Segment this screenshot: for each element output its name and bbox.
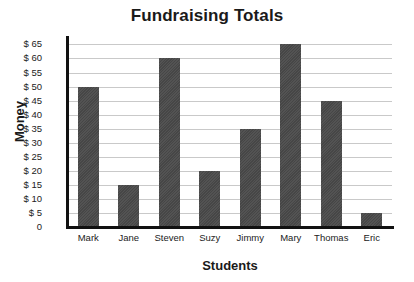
y-tick-label: $ 40 bbox=[0, 109, 42, 120]
gridline bbox=[68, 199, 392, 200]
y-tick-label: $ 10 bbox=[0, 193, 42, 204]
plot-area: $ 65$ 60$ 55$ 50$ 45$ 40$ 35$ 30$ 25$ 20… bbox=[68, 36, 392, 227]
y-tick-label: $ 65 bbox=[0, 38, 42, 49]
y-tick-label: $ 50 bbox=[0, 81, 42, 92]
gridline bbox=[68, 44, 392, 45]
gridline bbox=[68, 213, 392, 214]
gridline bbox=[68, 171, 392, 172]
bar-chart: Fundraising Totals Money $ 65$ 60$ 55$ 5… bbox=[0, 0, 414, 282]
x-axis-line bbox=[66, 226, 394, 229]
bar bbox=[78, 87, 99, 227]
gridline bbox=[68, 58, 392, 59]
y-tick-label: $ 25 bbox=[0, 151, 42, 162]
y-tick-label: $ 15 bbox=[0, 179, 42, 190]
gridline bbox=[68, 115, 392, 116]
bar bbox=[199, 171, 220, 227]
bar bbox=[240, 129, 261, 227]
y-tick-label: $ 20 bbox=[0, 165, 42, 176]
y-tick-label: 0 bbox=[0, 221, 42, 232]
y-tick-label: $ 45 bbox=[0, 95, 42, 106]
gridline bbox=[68, 101, 392, 102]
gridline bbox=[68, 87, 392, 88]
y-tick-label: $ 5 bbox=[0, 207, 42, 218]
bar bbox=[118, 185, 139, 227]
bar bbox=[280, 44, 301, 227]
gridline bbox=[68, 157, 392, 158]
bar bbox=[361, 213, 382, 227]
y-axis-line bbox=[66, 36, 69, 229]
chart-title: Fundraising Totals bbox=[0, 6, 414, 26]
y-tick-label: $ 60 bbox=[0, 52, 42, 63]
bar bbox=[321, 101, 342, 227]
gridline bbox=[68, 143, 392, 144]
x-tick-label: Eric bbox=[332, 232, 412, 243]
y-tick-label: $ 55 bbox=[0, 67, 42, 78]
y-tick-label: $ 35 bbox=[0, 123, 42, 134]
x-axis-title: Students bbox=[68, 258, 392, 273]
y-tick-label: $ 30 bbox=[0, 137, 42, 148]
gridline bbox=[68, 129, 392, 130]
bar bbox=[159, 58, 180, 227]
gridline bbox=[68, 185, 392, 186]
gridline bbox=[68, 73, 392, 74]
